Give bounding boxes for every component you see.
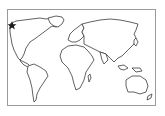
world-map: [0, 0, 165, 116]
japan: [134, 38, 138, 46]
europe: [68, 24, 84, 42]
australia: [126, 76, 148, 94]
new-guinea: [132, 68, 142, 72]
new-zealand: [147, 94, 152, 100]
south-america: [27, 64, 48, 102]
africa: [60, 45, 94, 90]
indonesia: [118, 65, 128, 70]
madagascar: [88, 74, 91, 82]
